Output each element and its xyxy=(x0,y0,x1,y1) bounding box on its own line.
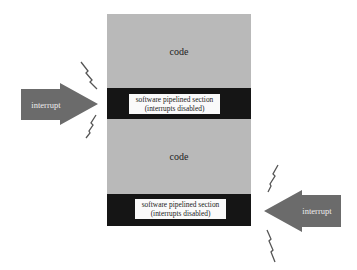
lightning-bolt-icon xyxy=(81,62,97,89)
lightning-bolt-icon xyxy=(86,115,96,138)
lightning-bolt-icon xyxy=(267,230,275,262)
lightning-bolt-icon xyxy=(268,165,278,192)
lightning-bolt-icons xyxy=(0,0,357,270)
